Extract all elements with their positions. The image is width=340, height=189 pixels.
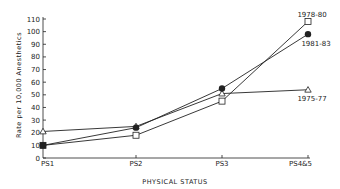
line-chart: 0102030405060708090100110 PS1PS2PS3PS4&5… — [0, 0, 340, 189]
series-1978-80: 1978-80 — [40, 11, 327, 149]
y-axis: 0102030405060708090100110 — [27, 16, 46, 163]
y-axis-title: Rate per 10,000 Anesthetics — [15, 32, 23, 138]
y-tick-label: 30 — [31, 117, 40, 125]
y-tick-label: 10 — [31, 142, 40, 150]
y-tick-label: 40 — [31, 104, 40, 112]
series-1981-83: 1981-83 — [40, 31, 331, 149]
series-1975-77: 1975-77 — [40, 87, 327, 134]
x-tick-label: PS3 — [215, 160, 228, 168]
circle-marker-icon — [305, 31, 311, 37]
series-group: 1975-771978-801981-83 — [40, 11, 331, 149]
square-marker-icon — [305, 19, 311, 25]
y-tick-label: 60 — [31, 79, 40, 87]
y-tick-label: 50 — [31, 91, 40, 99]
square-marker-icon — [219, 98, 225, 104]
overlap-marker-icon — [40, 142, 46, 148]
x-axis: PS1PS2PS3PS4&5 — [41, 155, 312, 168]
square-marker-icon — [133, 132, 139, 138]
y-tick-label: 0 — [36, 155, 40, 163]
series-label: 1978-80 — [297, 11, 326, 19]
series-label: 1975-77 — [297, 95, 326, 103]
x-tick-label: PS4&5 — [289, 160, 312, 168]
series-label: 1981-83 — [301, 40, 330, 48]
x-tick-label: PS1 — [41, 160, 54, 168]
y-tick-label: 80 — [31, 53, 40, 61]
y-tick-label: 90 — [31, 41, 40, 49]
y-tick-label: 100 — [27, 28, 40, 36]
circle-marker-icon — [219, 85, 225, 91]
y-tick-label: 110 — [27, 16, 40, 24]
triangle-marker-icon — [305, 87, 311, 93]
y-tick-label: 70 — [31, 66, 40, 74]
y-tick-label: 20 — [31, 129, 40, 137]
x-tick-label: PS2 — [129, 160, 142, 168]
circle-marker-icon — [133, 124, 139, 130]
x-axis-title: PHYSICAL STATUS — [142, 178, 207, 186]
